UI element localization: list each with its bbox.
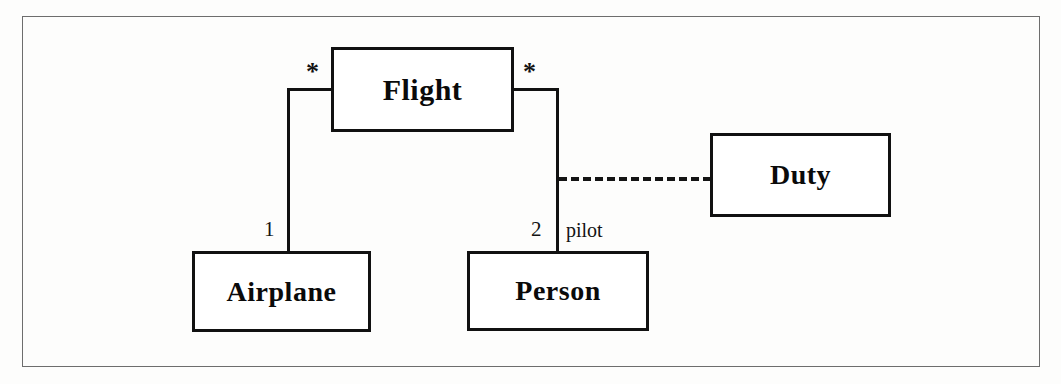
multiplicity-airplane-one: 1 — [264, 219, 275, 240]
class-name-person: Person — [515, 275, 600, 307]
multiplicity-flight-airplane-star: * — [306, 59, 319, 85]
class-name-airplane: Airplane — [227, 276, 337, 308]
connector-flight-airplane-vertical — [287, 88, 290, 253]
class-name-flight: Flight — [383, 73, 463, 107]
role-label-pilot: pilot — [566, 220, 603, 240]
connector-flight-person-vertical — [556, 88, 559, 253]
multiplicity-person-two: 2 — [531, 219, 542, 240]
diagram-canvas: Flight Airplane Person Duty * * 1 2 pilo… — [0, 0, 1061, 384]
class-box-duty[interactable]: Duty — [710, 133, 891, 217]
multiplicity-flight-person-star: * — [523, 59, 536, 85]
connector-flight-airplane-horizontal — [287, 88, 333, 91]
class-box-person[interactable]: Person — [467, 251, 649, 331]
class-box-airplane[interactable]: Airplane — [192, 251, 371, 332]
class-box-flight[interactable]: Flight — [331, 47, 514, 132]
connector-person-duty-dashed — [559, 177, 711, 181]
connector-flight-person-horizontal — [512, 88, 559, 91]
class-name-duty: Duty — [770, 159, 831, 191]
